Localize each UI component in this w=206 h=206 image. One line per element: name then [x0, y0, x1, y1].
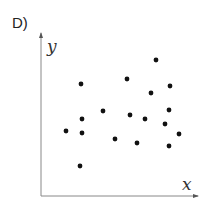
data-point: [128, 113, 133, 118]
data-point: [154, 58, 159, 63]
data-point: [80, 131, 85, 136]
data-point: [168, 84, 173, 89]
data-point: [135, 141, 140, 146]
y-axis-label: y: [46, 36, 57, 56]
data-point: [78, 164, 83, 169]
data-point: [125, 77, 130, 82]
x-axis-label: x: [182, 174, 192, 194]
data-point: [64, 129, 69, 134]
scatter-plot: y x: [0, 0, 206, 206]
data-point: [167, 144, 172, 149]
data-point: [163, 122, 168, 127]
data-point: [167, 108, 172, 113]
data-point: [80, 117, 85, 122]
data-point: [143, 117, 148, 122]
data-point: [149, 91, 154, 96]
data-point: [79, 82, 84, 87]
data-points: [64, 58, 182, 169]
data-point: [113, 137, 118, 142]
data-point: [177, 132, 182, 137]
data-point: [101, 109, 106, 114]
